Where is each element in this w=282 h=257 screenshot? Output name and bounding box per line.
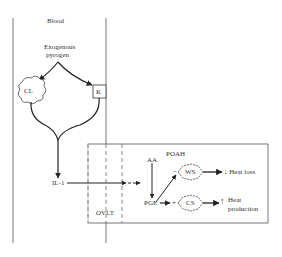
heat-loss-label: ↓ Heat loss: [224, 168, 255, 176]
ws-label: WS: [185, 168, 196, 176]
ws-sign: −: [173, 168, 177, 176]
pge-label: PGE: [144, 199, 157, 207]
aa-label: AA: [147, 156, 157, 164]
production-label: production: [228, 205, 258, 213]
cs-label: CS: [186, 199, 195, 207]
poah-label: POAH: [166, 150, 185, 158]
blood-label: Blood: [47, 17, 64, 25]
k-label: K: [96, 88, 101, 96]
heat-label: Heat: [228, 196, 241, 204]
cs-sign: +: [172, 199, 176, 207]
cl-label: CL: [24, 87, 33, 95]
pyrogen-label: pyrogen: [46, 51, 69, 59]
up-arrow-icon: ↑: [220, 197, 225, 205]
pyrogen-pathway-diagram: [0, 0, 282, 257]
il1-label: IL-1: [52, 179, 64, 187]
exogenous-label: Exogenous: [44, 43, 75, 51]
ovlt-label: OVLT: [96, 209, 114, 217]
